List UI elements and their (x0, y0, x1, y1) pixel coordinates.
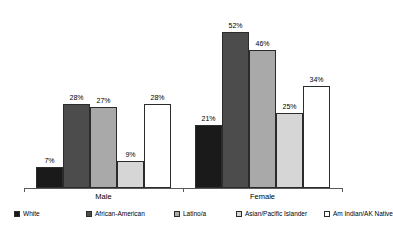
legend-item[interactable]: Latino/a (174, 210, 206, 218)
bar-value-label: 9% (125, 151, 135, 159)
bar-group-item: 34% (303, 8, 330, 188)
legend-swatch-icon (324, 211, 330, 217)
bar-value-label: 28% (69, 94, 83, 102)
chart-legend: WhiteAfrican-AmericanLatino/aAsian/Pacif… (14, 210, 354, 222)
bar-group-item: 46% (249, 8, 276, 188)
legend-item[interactable]: Am Indian/AK Native (324, 210, 393, 218)
bars-layer: 7%28%27%9%28%21%52%46%25%34% (24, 8, 342, 188)
bar (276, 113, 303, 188)
bar-value-label: 27% (96, 97, 110, 105)
legend-swatch-icon (236, 211, 242, 217)
legend-label: Asian/Pacific Islander (245, 210, 307, 218)
legend-swatch-icon (174, 211, 180, 217)
bar-group-item: 21% (195, 8, 222, 188)
legend-label: Latino/a (183, 210, 206, 218)
bar-group-item: 25% (276, 8, 303, 188)
bar-group-item: 27% (90, 8, 117, 188)
legend-swatch-icon (14, 211, 20, 217)
bar-group-item: 52% (222, 8, 249, 188)
legend-label: White (23, 210, 40, 218)
bar (303, 86, 330, 188)
legend-item[interactable]: African-American (86, 210, 145, 218)
bar-group-item: 28% (63, 8, 90, 188)
category-label-male: Male (24, 192, 183, 201)
bar-group-item: 9% (117, 8, 144, 188)
bar (90, 107, 117, 188)
legend-label: African-American (95, 210, 145, 218)
legend-swatch-icon (86, 211, 92, 217)
plot-area: 7%28%27%9%28%21%52%46%25%34% (24, 8, 342, 188)
bar (117, 161, 144, 188)
bar-value-label: 46% (255, 40, 269, 48)
bar-value-label: 28% (150, 94, 164, 102)
bar-value-label: 52% (228, 22, 242, 30)
axis-tick (342, 188, 343, 192)
bar-value-label: 25% (282, 103, 296, 111)
bar (36, 167, 63, 188)
legend-item[interactable]: White (14, 210, 40, 218)
bar-group-item: 28% (144, 8, 171, 188)
category-label-female: Female (183, 192, 342, 201)
bar-value-label: 34% (309, 76, 323, 84)
bar-group-item: 7% (36, 8, 63, 188)
bar-value-label: 7% (44, 157, 54, 165)
bar (249, 50, 276, 188)
legend-item[interactable]: Asian/Pacific Islander (236, 210, 307, 218)
bar (63, 104, 90, 188)
bar (195, 125, 222, 188)
bar-value-label: 21% (201, 115, 215, 123)
bar (144, 104, 171, 188)
bar (222, 32, 249, 188)
legend-label: Am Indian/AK Native (333, 210, 393, 218)
